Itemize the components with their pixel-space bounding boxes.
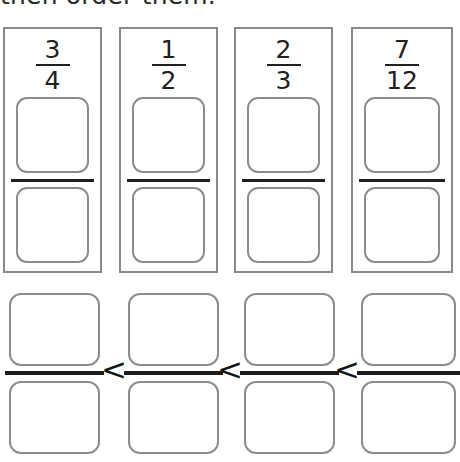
- answer-fraction-bar: [357, 371, 460, 375]
- answer-fraction-bar: [240, 371, 339, 375]
- fraction-numerator: 3: [45, 36, 61, 63]
- less-than-operator: <: [100, 351, 128, 387]
- denominator-blank-box[interactable]: [364, 187, 440, 263]
- answer-denominator-box[interactable]: [244, 381, 335, 454]
- blank-fraction-bar: [242, 179, 325, 182]
- fraction-numerator: 7: [394, 36, 410, 63]
- instruction-text: then order them.: [0, 0, 453, 11]
- blank-fraction-bar: [359, 179, 445, 182]
- fraction-denominator: 2: [161, 67, 177, 94]
- card-blank-fraction: [5, 97, 100, 269]
- card-blank-fraction: [353, 97, 451, 269]
- answer-numerator-box[interactable]: [361, 293, 456, 366]
- card-blank-fraction: [236, 97, 331, 269]
- fraction-label: 7 12: [353, 34, 451, 96]
- answer-denominator-box[interactable]: [128, 381, 219, 454]
- numerator-blank-box[interactable]: [247, 97, 320, 173]
- answer-fraction-bar: [5, 371, 104, 375]
- fraction-card[interactable]: 7 12: [351, 27, 453, 273]
- fraction-card[interactable]: 3 4: [3, 27, 102, 273]
- fraction-denominator: 12: [386, 67, 418, 94]
- fraction-numerator: 1: [161, 36, 177, 63]
- fraction-denominator: 3: [276, 67, 292, 94]
- numerator-blank-box[interactable]: [132, 97, 205, 173]
- answer-fraction-slot[interactable]: [128, 286, 219, 462]
- answer-denominator-box[interactable]: [361, 381, 456, 454]
- fraction-card-row: 3 4 1 2 2: [0, 27, 453, 274]
- fraction-label: 3 4: [5, 34, 100, 96]
- denominator-blank-box[interactable]: [247, 187, 320, 263]
- less-than-operator: <: [216, 351, 244, 387]
- answer-fraction-slot[interactable]: [9, 286, 100, 462]
- blank-fraction-bar: [127, 179, 210, 182]
- fraction-card[interactable]: 2 3: [234, 27, 333, 273]
- answer-fraction-bar: [124, 371, 223, 375]
- numerator-blank-box[interactable]: [364, 97, 440, 173]
- answer-numerator-box[interactable]: [9, 293, 100, 366]
- fraction-numerator: 2: [276, 36, 292, 63]
- fraction-label: 1 2: [121, 34, 216, 96]
- fraction-denominator: 4: [45, 67, 61, 94]
- answer-fraction-slot[interactable]: [244, 286, 335, 462]
- card-blank-fraction: [121, 97, 216, 269]
- denominator-blank-box[interactable]: [16, 187, 89, 263]
- answer-numerator-box[interactable]: [244, 293, 335, 366]
- fraction-card[interactable]: 1 2: [119, 27, 218, 273]
- answer-denominator-box[interactable]: [9, 381, 100, 454]
- numerator-blank-box[interactable]: [16, 97, 89, 173]
- blank-fraction-bar: [11, 179, 94, 182]
- less-than-operator: <: [333, 351, 361, 387]
- denominator-blank-box[interactable]: [132, 187, 205, 263]
- instruction-clip: then order them.: [0, 0, 453, 11]
- fraction-label: 2 3: [236, 34, 331, 96]
- answer-numerator-box[interactable]: [128, 293, 219, 366]
- answer-fraction-slot[interactable]: [361, 286, 456, 462]
